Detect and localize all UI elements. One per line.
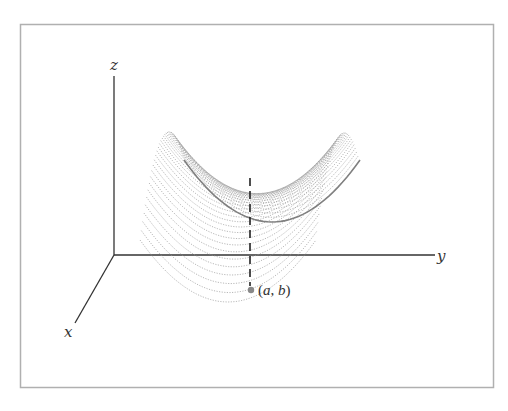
x-axis-label: x <box>64 323 73 341</box>
point-label-separator: , <box>271 282 279 298</box>
point-a-b-label: (a, b) <box>258 282 291 299</box>
point-label-close-paren: ) <box>286 282 291 299</box>
figure-frame <box>21 25 494 388</box>
z-axis-label: z <box>109 56 118 74</box>
y-axis-label: y <box>436 247 446 265</box>
point-a-b-marker <box>248 287 254 293</box>
point-label-a: a <box>263 282 271 298</box>
saddle-surface-diagram: z y x (a, b) <box>0 0 508 411</box>
